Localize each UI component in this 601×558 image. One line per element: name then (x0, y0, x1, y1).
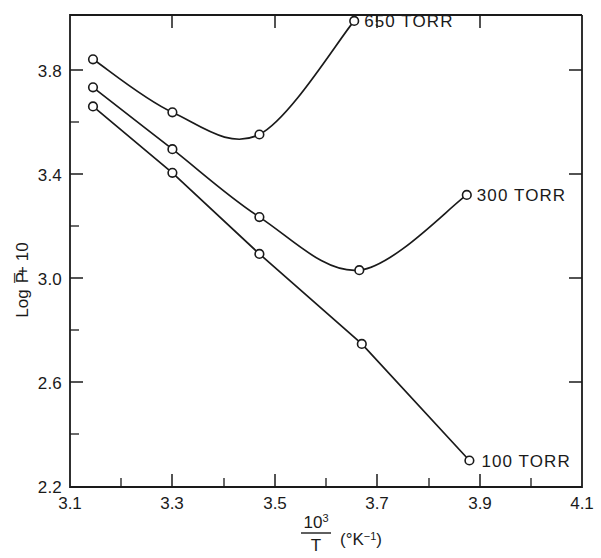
series-300-torr-line (93, 87, 467, 270)
data-point (355, 266, 364, 275)
data-point (465, 456, 474, 465)
x-axis-minor-ticks (121, 478, 531, 487)
y-tick-label-2-6: 2.6 (38, 374, 62, 393)
series-label-650-torr: 650 TORR (364, 12, 453, 31)
series-650-torr: 650 TORR (89, 12, 454, 139)
plot-frame (70, 15, 582, 487)
x-tick-label-3-1: 3.1 (58, 494, 82, 513)
svg-text:LogP̅+ 10: LogP̅+ 10 (13, 242, 32, 317)
series-label-300-torr: 300 TORR (477, 186, 566, 205)
series-650-torr-line (93, 21, 354, 139)
svg-text:(°K−1): (°K−1) (340, 530, 382, 549)
chart-svg: 3.8 3.4 3.0 2.6 2.2 3.1 3.3 3.5 3.7 3.9 … (0, 0, 601, 558)
y-tick-label-3-8: 3.8 (38, 62, 62, 81)
data-point (358, 340, 367, 349)
series-300-torr: 300 TORR (89, 83, 567, 275)
data-point (168, 108, 177, 117)
chart-figure: 3.8 3.4 3.0 2.6 2.2 3.1 3.3 3.5 3.7 3.9 … (0, 0, 601, 558)
data-point (168, 169, 177, 178)
data-point (89, 102, 98, 111)
data-point (255, 130, 264, 139)
x-tick-label-3-9: 3.9 (468, 494, 492, 513)
x-tick-label-3-7: 3.7 (365, 494, 389, 513)
x-tick-label-4-1: 4.1 (570, 494, 594, 513)
data-point (255, 250, 264, 259)
series-100-torr: 100 TORR (89, 102, 571, 470)
data-point (168, 145, 177, 154)
data-point (89, 83, 98, 92)
series-label-100-torr: 100 TORR (481, 452, 570, 471)
x-tick-label-3-3: 3.3 (160, 494, 184, 513)
data-point (350, 17, 359, 26)
data-point (89, 55, 98, 64)
svg-text:T: T (311, 536, 321, 555)
series-100-torr-line (93, 106, 469, 460)
x-axis-title: 103 T (°K−1) (301, 512, 382, 555)
y-tick-label-3-0: 3.0 (38, 270, 62, 289)
y-axis-right-ticks (569, 70, 582, 382)
data-point (463, 191, 472, 200)
data-point (255, 213, 264, 222)
y-tick-label-3-4: 3.4 (38, 166, 62, 185)
x-tick-label-3-5: 3.5 (263, 494, 287, 513)
y-axis-title: LogP̅+ 10 (13, 242, 32, 317)
svg-text:103: 103 (303, 512, 328, 532)
